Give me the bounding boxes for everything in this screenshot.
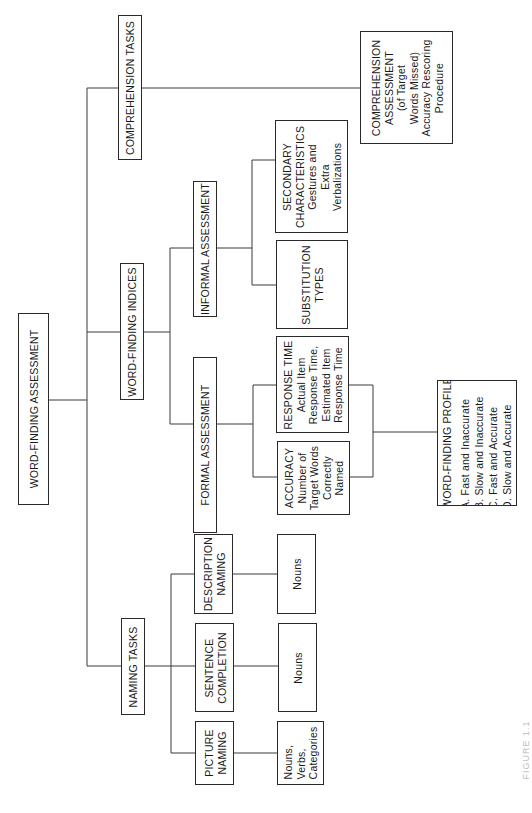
node-comprehension-assessment: COMPREHENSION ASSESSMENT (of Target Word…: [360, 31, 453, 144]
label-line: Nouns,: [282, 727, 295, 780]
label-line: Response Time,: [306, 340, 319, 429]
label-line: Verbs,: [294, 727, 307, 780]
node-label: FORMAL ASSESSMENT: [199, 385, 212, 506]
label-line: Correctly: [320, 446, 333, 511]
label-line: SUBSTITUTION: [300, 245, 313, 324]
label-line: CHARACTERISTICS: [293, 125, 306, 227]
label-line: Response Time: [331, 340, 344, 429]
node-description-naming-target: Nouns: [277, 534, 316, 614]
label-line: TYPES: [312, 245, 325, 324]
node-comprehension-tasks: COMPREHENSION TASKS: [118, 15, 142, 160]
profile-title: WORD-FINDING PROFILE: [440, 380, 454, 506]
label-line: Number of: [295, 446, 308, 511]
node-word-finding-assessment: WORD-FINDING ASSESSMENT: [18, 313, 49, 505]
node-picture-naming: PICTURE NAMING: [195, 721, 234, 785]
label-line: DESCRIPTION: [201, 537, 214, 611]
label-line: ASSESSMENT: [382, 39, 395, 136]
node-secondary-characteristics: SECONDARY CHARACTERISTICS Gestures and E…: [275, 120, 348, 233]
label-line: COMPREHENSION: [369, 39, 382, 136]
node-label: SECONDARY CHARACTERISTICS Gestures and E…: [280, 125, 343, 227]
node-label: WORD-FINDING INDICES: [126, 267, 139, 396]
label-line: NAMING: [215, 729, 228, 777]
node-naming-tasks: NAMING TASKS: [121, 618, 145, 715]
label-line: Actual Item: [294, 340, 307, 429]
label-line: Gestures and: [305, 125, 318, 227]
label-line: SENTENCE: [202, 632, 215, 703]
node-label: COMPREHENSION ASSESSMENT (of Target Word…: [369, 39, 444, 136]
node-response-time: RESPONSE TIME Actual Item Response Time,…: [276, 336, 349, 433]
node-label: WORD-FINDING ASSESSMENT: [27, 330, 40, 489]
label-line: ACCURACY: [282, 446, 295, 511]
label-line: NAMING: [214, 537, 227, 611]
label-line: Named: [332, 446, 345, 511]
node-label: Nouns: [290, 558, 303, 589]
label-line: Extra: [318, 125, 331, 227]
label-line: Words Missed): [407, 39, 420, 136]
node-sentence-completion: SENTENCE COMPLETION: [195, 623, 234, 712]
label-line: Verbalizations: [330, 125, 343, 227]
label-line: Categories: [307, 727, 320, 780]
node-picture-naming-target: Nouns, Verbs, Categories: [277, 721, 324, 785]
label-line: RESPONSE TIME: [281, 340, 294, 429]
node-label: Nouns: [291, 652, 304, 683]
node-label: Nouns, Verbs, Categories: [282, 727, 320, 780]
node-label: INFORMAL ASSESSMENT: [199, 183, 212, 315]
label-line: Accuracy Rescoring: [419, 39, 432, 136]
node-label: SENTENCE COMPLETION: [202, 632, 227, 703]
node-accuracy: ACCURACY Number of Target Words Correctl…: [277, 441, 350, 515]
node-label: COMPREHENSION TASKS: [124, 20, 137, 154]
profile-item: A. Fast and Inaccurate: [458, 380, 472, 506]
label-line: Target Words: [307, 446, 320, 511]
node-informal-assessment: INFORMAL ASSESSMENT: [193, 181, 217, 317]
node-description-naming: DESCRIPTION NAMING: [194, 534, 233, 614]
figure-caption: FIGURE 1.1: [519, 700, 532, 800]
node-label: PICTURE NAMING: [202, 729, 227, 777]
node-label: WORD-FINDING PROFILE A. Fast and Inaccur…: [440, 380, 514, 506]
node-word-finding-profile: WORD-FINDING PROFILE A. Fast and Inaccur…: [437, 380, 517, 506]
node-label: ACCURACY Number of Target Words Correctl…: [282, 446, 345, 511]
label-line: (of Target: [394, 39, 407, 136]
profile-item: C. Fast and Accurate: [486, 380, 500, 506]
label-line: PICTURE: [202, 729, 215, 777]
node-label: NAMING TASKS: [127, 626, 140, 707]
node-formal-assessment: FORMAL ASSESSMENT: [193, 357, 217, 533]
node-word-finding-indices: WORD-FINDING INDICES: [120, 263, 144, 400]
node-substitution-types: SUBSTITUTION TYPES: [276, 240, 348, 329]
node-label: RESPONSE TIME Actual Item Response Time,…: [281, 340, 344, 429]
profile-item: D. Slow and Accurate: [500, 380, 514, 506]
label-line: COMPLETION: [215, 632, 228, 703]
label-line: SECONDARY: [280, 125, 293, 227]
node-label: DESCRIPTION NAMING: [201, 537, 226, 611]
node-label: SUBSTITUTION TYPES: [300, 245, 325, 324]
node-sentence-completion-target: Nouns: [278, 623, 317, 712]
profile-item: B. Slow and Inaccurate: [472, 380, 486, 506]
label-line: Procedure: [432, 39, 445, 136]
label-line: Estimated Item: [319, 340, 332, 429]
figure-caption-text: FIGURE 1.1: [521, 720, 531, 779]
